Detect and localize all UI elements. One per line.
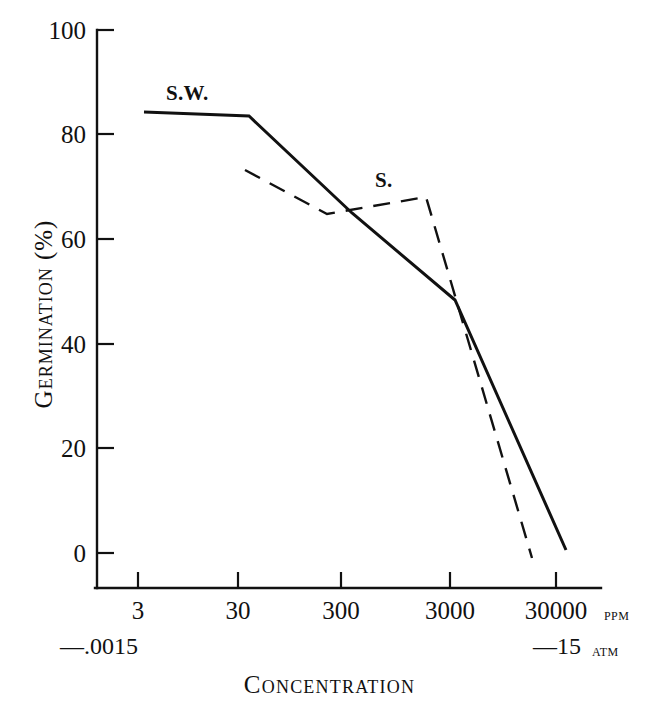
x-axis-ticks [138,572,556,588]
series-annotation-s: S. [375,170,393,191]
y-tick-label-80: 80 [24,122,86,147]
x-tick-label-30: 30 [208,598,268,623]
series-annotation-sw: S.W. [166,83,208,104]
x-tick-label-300: 300 [311,598,371,623]
y-tick-label-100: 100 [24,18,86,43]
atm-left-value: —.0015 [60,634,138,658]
x-tick-label-30000: 30000 [513,598,599,623]
x-tick-label-3000: 3000 [415,598,485,623]
x-axis-unit-ppm: ppm [604,606,629,623]
y-axis-ticks [97,30,114,553]
y-axis-title: Germination (%) [30,154,58,474]
chart-figure: 100 80 60 40 20 0 Germination (%) 3 30 3… [0,0,659,706]
series-line-sw [144,112,566,550]
series-line-s [245,170,532,558]
atm-unit-label: atm [592,642,619,659]
y-axis-title-text: Germination (%) [30,220,57,409]
x-tick-label-3: 3 [108,598,168,623]
y-tick-label-0: 0 [24,541,86,566]
x-axis-title: Concentration [0,672,659,697]
atm-right-value: —15 [533,634,581,658]
